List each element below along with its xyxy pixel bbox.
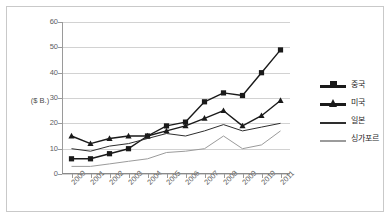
data-point-marker <box>107 151 112 156</box>
data-point-marker <box>277 97 283 103</box>
data-point-marker <box>259 70 264 75</box>
chart-legend: 중국미국일본싱가포르 <box>320 78 386 150</box>
legend-item-0[interactable]: 중국 <box>320 78 386 96</box>
data-point-marker <box>68 133 74 139</box>
legend-item-2[interactable]: 일본 <box>320 114 386 132</box>
legend-item-1[interactable]: 미국 <box>320 96 386 114</box>
legend-item-3[interactable]: 싱가포르 <box>320 132 386 150</box>
legend-swatch-icon <box>320 140 346 142</box>
legend-label: 중국 <box>351 80 365 90</box>
data-point-marker <box>202 99 207 104</box>
data-point-marker <box>220 108 226 114</box>
legend-label: 미국 <box>351 98 365 108</box>
series-line-3 <box>72 131 281 167</box>
square-marker-icon <box>330 81 337 88</box>
legend-swatch-icon <box>320 122 346 124</box>
line-chart: ($ B.) 0102030405060 2000200120022003200… <box>0 0 392 220</box>
data-point-marker <box>126 146 131 151</box>
data-point-marker <box>221 90 226 95</box>
legend-label: 싱가포르 <box>351 134 379 144</box>
series-line-0 <box>72 50 281 159</box>
data-point-marker <box>278 47 283 52</box>
legend-label: 일본 <box>351 116 365 126</box>
triangle-marker-icon <box>329 99 337 107</box>
series-line-1 <box>72 101 281 144</box>
data-point-marker <box>69 156 74 161</box>
data-point-marker <box>88 156 93 161</box>
data-point-marker <box>240 93 245 98</box>
